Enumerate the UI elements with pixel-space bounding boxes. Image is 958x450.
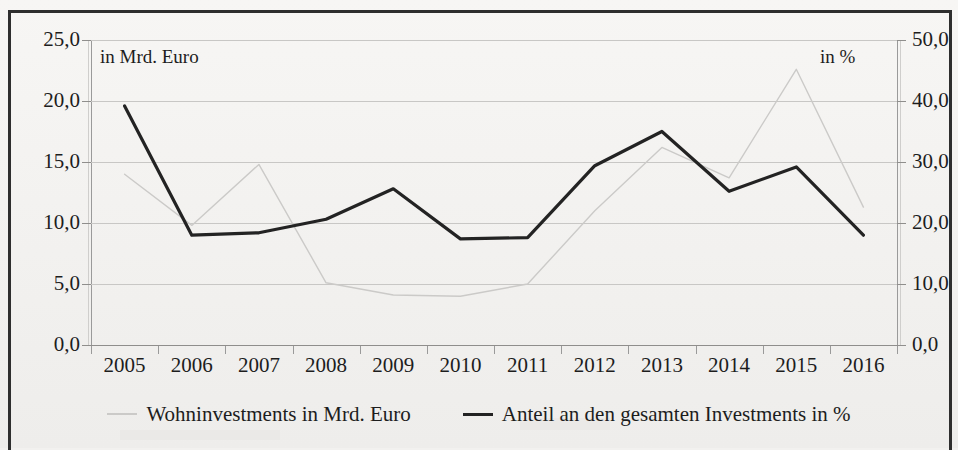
legend-item-anteil: Anteil an den gesamten Investments in % (463, 402, 851, 427)
series-line-anteil (125, 106, 864, 239)
legend-item-wohninvestments: Wohninvestments in Mrd. Euro (107, 402, 410, 427)
legend-label: Wohninvestments in Mrd. Euro (146, 402, 410, 427)
chart-legend: Wohninvestments in Mrd. Euro Anteil an d… (0, 397, 958, 431)
legend-line-icon-grey (107, 413, 137, 415)
legend-line-icon-black (463, 413, 493, 416)
legend-label: Anteil an den gesamten Investments in % (502, 402, 851, 427)
